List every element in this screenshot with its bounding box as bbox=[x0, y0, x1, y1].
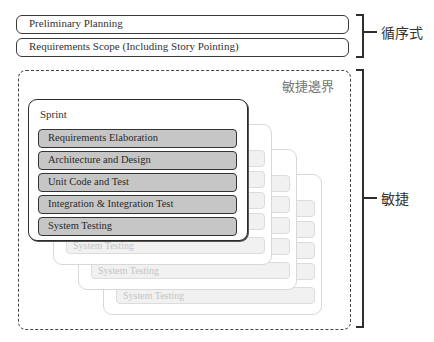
agile-label: 敏捷 bbox=[381, 188, 409, 208]
sprint-card: Sprint Requirements Elaboration Architec… bbox=[28, 99, 248, 241]
waterfall-bracket bbox=[356, 14, 364, 58]
waterfall-label: 循序式 bbox=[381, 22, 423, 42]
phase-system-testing: System Testing bbox=[38, 217, 237, 236]
agile-bracket-connector bbox=[363, 197, 377, 199]
waterfall-step-label: Preliminary Planning bbox=[29, 17, 123, 29]
phase-unit-code-test: Unit Code and Test bbox=[38, 173, 237, 192]
phase-requirements-elaboration: Requirements Elaboration bbox=[38, 129, 237, 148]
waterfall-step-preliminary-planning: Preliminary Planning bbox=[16, 15, 349, 34]
waterfall-step-label: Requirements Scope (Including Story Poin… bbox=[29, 40, 239, 52]
phase-integration-test: Integration & Integration Test bbox=[38, 195, 237, 214]
waterfall-bracket-connector bbox=[363, 31, 377, 33]
agile-boundary-label: 敏捷邊界 bbox=[282, 76, 334, 95]
phase-architecture-design: Architecture and Design bbox=[38, 151, 237, 170]
sprint-title: Sprint bbox=[40, 108, 67, 120]
waterfall-step-requirements-scope: Requirements Scope (Including Story Poin… bbox=[16, 38, 349, 57]
